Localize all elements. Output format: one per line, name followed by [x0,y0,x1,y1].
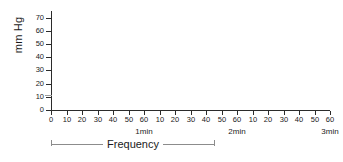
y-axis-tick-label: 40 [18,53,44,61]
y-axis-tick-label: 10 [18,93,44,101]
y-axis-tick-label: 0 [18,106,44,114]
x-axis-minute-label: 2min [217,127,257,136]
y-axis-tick [46,97,51,98]
y-axis-tick [46,57,51,58]
y-axis-tick-label: 60 [18,27,44,35]
y-axis-tick-label: 30 [18,66,44,74]
y-axis-tick [46,70,51,71]
y-axis-tick [46,31,51,32]
y-axis-tick-label: 70 [18,14,44,22]
x-axis-minute-label: 1min [124,127,164,136]
y-axis-tick-label: 50 [18,40,44,48]
frequency-bracket-left-end [51,140,52,146]
frequency-bracket-right-end [214,140,215,146]
y-axis-line [51,11,52,111]
frequency-annotation-label: Frequency [103,137,163,151]
x-axis-minute-label: 3min [310,127,343,136]
x-axis-tick-label: 60 [320,116,340,124]
y-axis-tick [46,44,51,45]
y-axis-tick [46,18,51,19]
y-axis-tick-label: 20 [18,80,44,88]
y-axis-tick [46,84,51,85]
baseline-stub-mark [45,95,52,96]
